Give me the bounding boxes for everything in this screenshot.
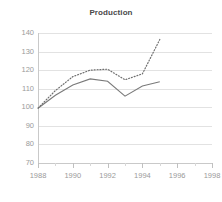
x-tick: [73, 163, 74, 168]
x-tick-minor: [55, 163, 56, 166]
x-tick-label: 1988: [21, 171, 55, 180]
production-line-chart: Production 140 130 120 110 100 90 80 70: [0, 0, 222, 202]
x-tick: [108, 163, 109, 168]
x-tick-label: 1994: [125, 171, 159, 180]
x-tick: [177, 163, 178, 168]
y-tick-label: 90: [4, 122, 34, 130]
y-tick-label: 100: [4, 103, 34, 111]
y-tick-label: 130: [4, 48, 34, 56]
x-tick-minor: [160, 163, 161, 166]
x-tick-label: 1992: [91, 171, 125, 180]
y-tick-label: 110: [4, 85, 34, 93]
x-tick-minor: [195, 163, 196, 166]
x-tick-label: 1996: [160, 171, 194, 180]
x-tick-minor: [125, 163, 126, 166]
x-tick: [212, 163, 213, 168]
x-tick-minor: [90, 163, 91, 166]
x-tick: [38, 163, 39, 168]
y-tick-label: 70: [4, 159, 34, 167]
x-tick-label: 1998: [195, 171, 222, 180]
solid-series-line: [38, 79, 160, 108]
y-tick-label: 80: [4, 140, 34, 148]
series-plot: [38, 33, 212, 163]
y-tick-label: 120: [4, 66, 34, 74]
dotted-series-line: [38, 40, 160, 109]
y-tick-label: 140: [4, 29, 34, 37]
x-tick: [142, 163, 143, 168]
x-tick-label: 1990: [56, 171, 90, 180]
